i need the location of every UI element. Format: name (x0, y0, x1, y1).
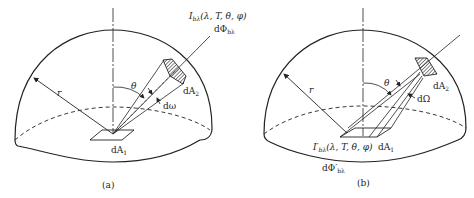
hemisphere-outline (15, 30, 212, 162)
panel-b: r θ dΩ dA2 dA1 I′bλ(λ, T, θ, φ) dΦ′bλ (b… (264, 8, 466, 188)
radius-line (34, 78, 113, 134)
flux-label: dΦbλ (214, 24, 235, 35)
radius-label: r (57, 88, 62, 98)
area-da1 (90, 130, 134, 140)
dw-arrow (148, 88, 152, 94)
da1-label: dA1 (378, 142, 394, 153)
flux-label: dΦ′bλ (322, 163, 345, 174)
intensity-label: Ibλ(λ, T, θ, φ) (188, 11, 247, 22)
equator-dashed (264, 106, 466, 134)
figure-canvas: r θ dω dA2 dA1 Ibλ(λ, T, θ, φ) dΦbλ (a) … (0, 0, 474, 198)
intensity-label: I′bλ(λ, T, θ, φ) (312, 142, 373, 153)
theta-label: θ (384, 78, 390, 88)
da2-label: dA2 (183, 86, 199, 97)
caption-a: (a) (102, 180, 114, 190)
cone-edge (113, 60, 164, 134)
domega-arrow (408, 94, 415, 98)
solid-angle-label: dω (163, 101, 176, 111)
radius-label: r (309, 85, 314, 95)
panel-a: r θ dω dA2 dA1 Ibλ(λ, T, θ, φ) dΦbλ (a) (15, 8, 247, 190)
area-da2 (415, 58, 437, 76)
caption-b: (b) (357, 178, 370, 188)
equator-dashed (15, 107, 210, 140)
da2-label: dA2 (433, 81, 449, 92)
radius-line (284, 74, 347, 133)
theta-label: θ (131, 81, 137, 91)
solid-angle-label: dΩ (417, 94, 430, 104)
da1-label: dA1 (111, 145, 127, 156)
domega-arrow (396, 80, 400, 86)
area-da1 (340, 128, 391, 137)
